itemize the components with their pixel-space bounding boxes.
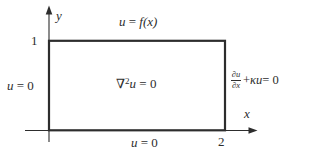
right-bc-coefficient-term: κu	[250, 74, 262, 87]
fraction-denominator: ∂x	[231, 80, 241, 91]
top-bc-equals: =	[126, 14, 140, 29]
right-bc-rest: = 0	[262, 74, 278, 87]
interior-rest: = 0	[136, 76, 156, 91]
pde-boundary-value-diagram: y x 1 2 u = f(x) u = 0 ∇2u = 0 ∂u ∂x + κ…	[0, 0, 314, 162]
x-axis-arrowhead-icon	[249, 127, 258, 134]
x-axis-label: x	[244, 107, 250, 120]
boundary-condition-right: ∂u ∂x + κu = 0	[231, 70, 279, 91]
bottom-bc-rest: = 0	[138, 135, 158, 150]
fraction-numerator: ∂u	[232, 70, 240, 80]
y-axis-tick-1: 1	[31, 34, 38, 47]
y-axis-arrowhead-icon	[46, 6, 53, 15]
x-axis-tick-2: 2	[218, 135, 225, 148]
right-bc-plus: +	[243, 74, 250, 87]
interior-pde-label: ∇2u = 0	[116, 77, 156, 90]
nabla-symbol: ∇	[116, 76, 125, 91]
left-bc-rest: = 0	[14, 78, 34, 93]
top-bc-expression: f(x)	[139, 14, 157, 29]
boundary-condition-top: u = f(x)	[119, 15, 157, 28]
nabla-exponent: 2	[125, 76, 130, 86]
boundary-condition-bottom: u = 0	[131, 136, 158, 149]
partial-derivative-fraction: ∂u ∂x	[231, 70, 241, 91]
y-axis-label: y	[56, 9, 62, 22]
boundary-condition-left: u = 0	[7, 79, 34, 92]
